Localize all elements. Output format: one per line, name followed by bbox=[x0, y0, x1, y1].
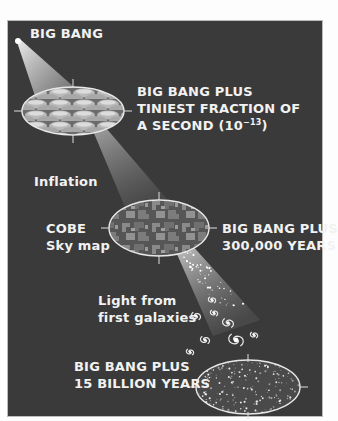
star-speck bbox=[189, 262, 191, 264]
star-speck bbox=[245, 407, 247, 409]
cobe-caption: COBE Sky map bbox=[46, 220, 110, 254]
star-speck bbox=[245, 379, 247, 381]
cobe-sky-map-ellipse bbox=[101, 192, 217, 264]
star-speck bbox=[279, 401, 280, 402]
star-speck bbox=[291, 378, 292, 379]
star-speck bbox=[219, 393, 221, 395]
star-speck bbox=[232, 393, 234, 395]
star-speck bbox=[197, 279, 198, 280]
star-speck bbox=[197, 402, 198, 403]
star-speck bbox=[256, 401, 258, 403]
stage3-caption-line1: BIG BANG PLUS bbox=[74, 358, 210, 375]
star-speck bbox=[224, 413, 225, 414]
star-speck bbox=[259, 363, 261, 365]
star-speck bbox=[289, 396, 291, 398]
star-speck bbox=[278, 374, 280, 376]
star-speck bbox=[211, 369, 212, 370]
stage2-caption-line1: BIG BANG PLUS bbox=[222, 220, 338, 237]
star-speck bbox=[183, 256, 185, 258]
star-speck bbox=[245, 387, 246, 388]
star-speck bbox=[295, 407, 296, 408]
star-speck bbox=[204, 393, 206, 395]
big-bang-point bbox=[15, 38, 21, 44]
star-speck bbox=[274, 371, 275, 372]
star-speck bbox=[237, 386, 239, 388]
star-speck bbox=[247, 374, 248, 375]
star-speck bbox=[273, 373, 275, 375]
star-speck bbox=[247, 388, 248, 389]
star-speck bbox=[191, 252, 192, 253]
star-speck bbox=[234, 305, 235, 306]
star-speck bbox=[259, 366, 260, 367]
star-speck bbox=[255, 377, 257, 379]
star-speck bbox=[278, 398, 279, 399]
star-speck bbox=[268, 396, 270, 398]
star-speck bbox=[187, 252, 189, 254]
star-speck bbox=[276, 394, 277, 395]
star-speck bbox=[279, 403, 280, 404]
star-speck bbox=[298, 366, 299, 367]
star-speck bbox=[209, 287, 211, 289]
star-speck bbox=[226, 304, 227, 305]
star-speck bbox=[208, 267, 210, 269]
big-bang-label: BIG BANG bbox=[30, 25, 103, 42]
star-speck bbox=[281, 363, 282, 364]
star-speck bbox=[232, 399, 233, 400]
star-speck bbox=[236, 361, 237, 362]
star-speck bbox=[281, 370, 282, 371]
star-speck bbox=[198, 281, 199, 282]
star-speck bbox=[210, 400, 211, 401]
star-speck bbox=[217, 286, 218, 287]
star-speck bbox=[270, 397, 272, 399]
spiral-galaxy-icon bbox=[250, 332, 257, 338]
star-speck bbox=[283, 413, 285, 415]
star-speck bbox=[200, 281, 201, 282]
star-speck bbox=[287, 376, 288, 377]
star-speck bbox=[198, 392, 199, 393]
star-speck bbox=[215, 402, 217, 404]
light-caption-line2: first galaxies bbox=[98, 309, 197, 326]
star-speck bbox=[207, 286, 209, 288]
star-speck bbox=[284, 361, 285, 362]
star-speck bbox=[208, 274, 209, 275]
star-speck bbox=[272, 412, 273, 413]
star-speck bbox=[241, 369, 242, 370]
star-speck bbox=[197, 405, 199, 407]
star-speck bbox=[196, 396, 197, 397]
star-speck bbox=[219, 382, 221, 384]
star-speck bbox=[230, 377, 231, 378]
star-speck bbox=[217, 399, 218, 400]
star-speck bbox=[215, 400, 216, 401]
star-speck bbox=[213, 369, 214, 370]
star-speck bbox=[223, 288, 225, 290]
star-speck bbox=[206, 407, 207, 408]
star-speck bbox=[206, 399, 207, 400]
star-speck bbox=[228, 368, 230, 370]
star-speck bbox=[281, 382, 283, 384]
star-speck bbox=[234, 371, 235, 372]
star-speck bbox=[201, 407, 203, 409]
spiral-galaxy-icon bbox=[201, 336, 210, 344]
star-speck bbox=[294, 390, 296, 392]
star-speck bbox=[202, 283, 203, 284]
star-speck bbox=[253, 403, 254, 404]
star-speck bbox=[265, 409, 266, 410]
star-speck bbox=[204, 277, 206, 279]
early-universe-ellipse bbox=[14, 79, 132, 143]
star-speck bbox=[200, 264, 202, 266]
star-speck bbox=[190, 252, 191, 253]
star-speck bbox=[259, 372, 261, 374]
star-speck bbox=[195, 266, 197, 268]
star-speck bbox=[211, 377, 212, 378]
star-speck bbox=[277, 363, 278, 364]
stage1-caption-line2: TINIEST FRACTION OF bbox=[137, 100, 300, 117]
star-speck bbox=[291, 397, 292, 398]
star-speck bbox=[209, 397, 211, 399]
star-speck bbox=[255, 410, 257, 412]
star-speck bbox=[222, 408, 223, 409]
star-speck bbox=[286, 383, 287, 384]
star-speck bbox=[232, 381, 234, 383]
star-speck bbox=[292, 411, 294, 413]
star-speck bbox=[199, 270, 201, 272]
star-speck bbox=[283, 365, 284, 366]
